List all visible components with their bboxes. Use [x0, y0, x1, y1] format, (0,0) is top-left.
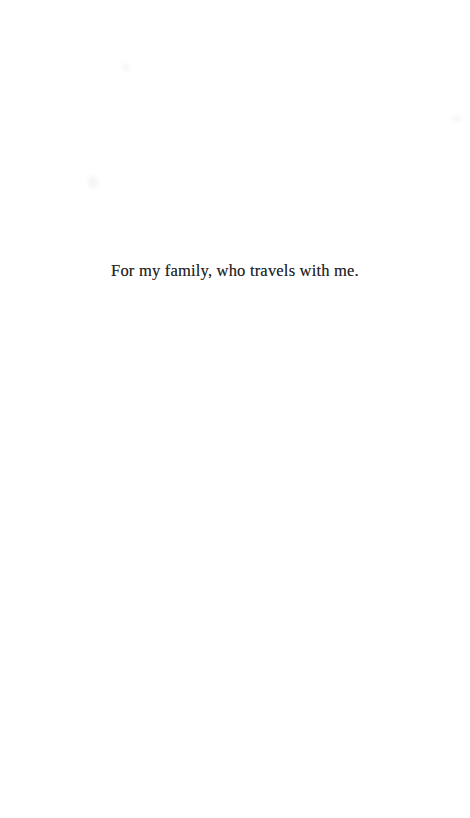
book-page: For my family, who travels with me. — [0, 0, 470, 818]
scan-smudge — [88, 176, 98, 188]
dedication-text: For my family, who travels with me. — [0, 261, 470, 282]
scan-smudge — [122, 64, 130, 70]
scan-smudge — [452, 116, 462, 121]
